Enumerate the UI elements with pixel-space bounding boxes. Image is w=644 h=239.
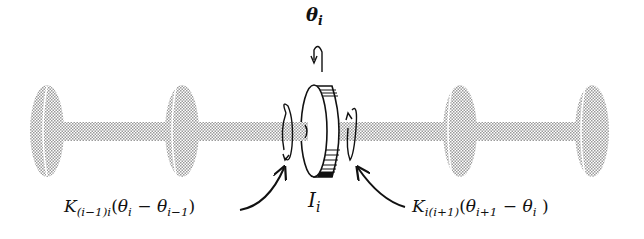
left-torque-label: K(i−1)i(θi − θi−1) [64,196,195,219]
disk-5 [575,85,609,177]
inertia-label: Ii [308,188,320,215]
right-pointer-arrow [358,168,405,207]
disk-4 [443,85,477,177]
theta-label: θi [306,4,323,28]
disk-2 [165,85,199,177]
disk-1 [30,85,64,177]
theta-rotation-arrow-icon [311,46,322,72]
inertia-disk [298,85,340,177]
left-pointer-arrow [240,168,284,210]
right-torque-label: Ki(i+1)(θi+1 − θi ) [412,196,549,219]
